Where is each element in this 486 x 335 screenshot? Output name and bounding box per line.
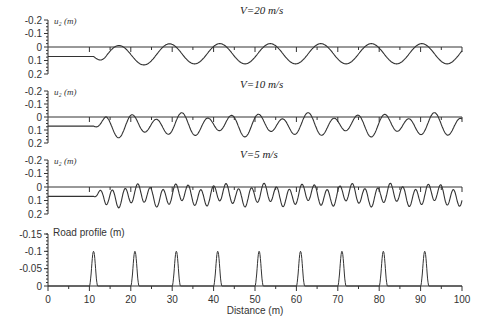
y-tick-label: -0.1 — [25, 28, 43, 39]
y-tick-label: 0.1 — [28, 55, 42, 66]
road-profile-panel: -0.15-0.1-0.050Road profile (m)010203040… — [19, 227, 471, 316]
x-tick-label: 50 — [249, 294, 261, 305]
y-tick-label: -0.15 — [19, 229, 42, 240]
y-tick-label: 0.1 — [28, 125, 42, 136]
y-tick-label: -0.05 — [19, 263, 42, 274]
panel-title: V=5 m/s — [240, 148, 278, 160]
road-profile-label: Road profile (m) — [53, 227, 125, 238]
y-tick-label: 0 — [36, 42, 42, 53]
y-tick-label: -0.1 — [25, 168, 43, 179]
y-tick-label: -0.1 — [25, 99, 43, 110]
y-axis-label: u₂ (m) — [54, 87, 76, 97]
x-tick-label: 100 — [454, 294, 471, 305]
y-tick-label: 0 — [36, 112, 42, 123]
y-tick-label: 0.2 — [28, 69, 42, 80]
x-tick-label: 30 — [167, 294, 179, 305]
y-tick-label: 0.2 — [28, 209, 42, 220]
y-tick-label: 0 — [36, 281, 42, 292]
y-tick-label: -0.2 — [25, 86, 43, 97]
road-profile-curve — [48, 251, 462, 286]
x-tick-label: 40 — [208, 294, 220, 305]
y-tick-label: 0.2 — [28, 138, 42, 149]
response-panel-3: -0.2-0.100.10.2u₂ (m)V=5 m/s — [25, 148, 462, 220]
y-axis-label: u₂ (m) — [54, 16, 76, 26]
response-panel-2: -0.2-0.100.10.2u₂ (m)V=10 m/s — [25, 78, 462, 149]
y-axis-label: u₂ (m) — [54, 156, 76, 166]
y-tick-label: 0.1 — [28, 195, 42, 206]
panel-title: V=20 m/s — [240, 4, 283, 16]
figure: -0.2-0.100.10.2u₂ (m)V=20 m/s-0.2-0.100.… — [0, 0, 486, 335]
y-tick-label: -0.2 — [25, 15, 43, 26]
y-tick-label: 0 — [36, 182, 42, 193]
x-tick-label: 70 — [332, 294, 344, 305]
response-curve — [48, 113, 462, 138]
response-panel-1: -0.2-0.100.10.2u₂ (m)V=20 m/s — [25, 4, 462, 80]
x-tick-label: 80 — [374, 294, 386, 305]
y-tick-label: -0.2 — [25, 155, 43, 166]
panel-title: V=10 m/s — [240, 78, 283, 90]
x-tick-label: 10 — [84, 294, 96, 305]
x-tick-label: 0 — [45, 294, 51, 305]
y-tick-label: -0.1 — [25, 246, 43, 257]
x-tick-label: 20 — [125, 294, 137, 305]
x-tick-label: 60 — [291, 294, 303, 305]
x-axis-label: Distance (m) — [227, 305, 284, 316]
x-tick-label: 90 — [415, 294, 427, 305]
